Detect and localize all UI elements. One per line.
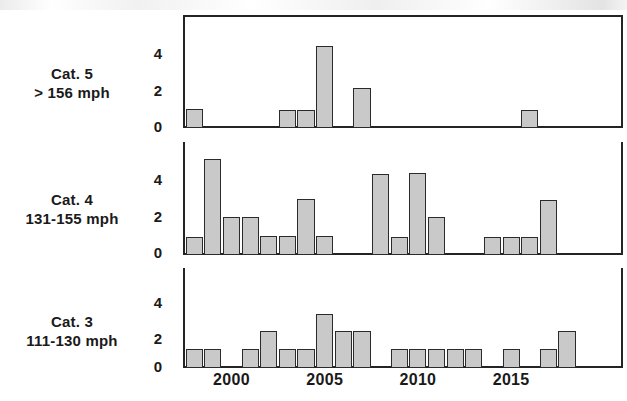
bar bbox=[540, 200, 557, 255]
xtick-2000: 2000 bbox=[201, 372, 261, 388]
bar bbox=[428, 349, 445, 368]
ytick-cat5-2: 2 bbox=[142, 83, 162, 98]
bar bbox=[279, 349, 296, 368]
bar bbox=[204, 349, 221, 368]
bar bbox=[391, 349, 408, 368]
bar bbox=[372, 174, 389, 255]
bar bbox=[260, 236, 277, 255]
panel-label-cat-3-line2: 111-130 mph bbox=[8, 331, 136, 350]
baseline-cat-5 bbox=[183, 126, 623, 128]
bar bbox=[297, 349, 314, 368]
panel-label-cat-4: Cat. 4 131-155 mph bbox=[8, 190, 136, 228]
ytick-cat5-0: 0 bbox=[142, 119, 162, 134]
xtick-2005: 2005 bbox=[295, 372, 355, 388]
bar bbox=[204, 159, 221, 255]
panel-label-cat-5: Cat. 5 > 156 mph bbox=[8, 64, 136, 102]
bar bbox=[279, 110, 296, 128]
panel-label-cat-5-line1: Cat. 5 bbox=[51, 65, 93, 82]
bar bbox=[521, 237, 538, 255]
bar bbox=[186, 237, 203, 255]
plot-area-cat-4 bbox=[183, 142, 623, 255]
plot-area-cat-5 bbox=[183, 15, 623, 128]
bar bbox=[260, 331, 277, 368]
panel-label-cat-5-line2: > 156 mph bbox=[8, 83, 136, 102]
bar bbox=[521, 110, 538, 128]
bar bbox=[447, 349, 464, 368]
panel-label-cat-4-line1: Cat. 4 bbox=[51, 191, 93, 208]
ytick-cat3-4: 4 bbox=[142, 295, 162, 310]
bar bbox=[353, 331, 370, 368]
bar bbox=[316, 46, 333, 128]
panel-label-cat-3: Cat. 3 111-130 mph bbox=[8, 312, 136, 350]
ytick-cat4-2: 2 bbox=[142, 209, 162, 224]
bar bbox=[503, 349, 520, 368]
hurricane-category-bar-chart-figure: Cat. 5 > 156 mph 4 2 0 Cat. 4 131-155 mp… bbox=[0, 0, 627, 401]
bar bbox=[316, 236, 333, 255]
bar bbox=[316, 314, 333, 368]
bar bbox=[242, 217, 259, 255]
ytick-cat3-0: 0 bbox=[142, 359, 162, 374]
bar bbox=[409, 349, 426, 368]
bar bbox=[353, 88, 370, 128]
bar bbox=[409, 173, 426, 255]
xtick-2010: 2010 bbox=[388, 372, 448, 388]
ytick-cat5-4: 4 bbox=[142, 46, 162, 61]
xtick-2015: 2015 bbox=[481, 372, 541, 388]
bar bbox=[540, 349, 557, 368]
bar bbox=[279, 236, 296, 255]
bar bbox=[465, 349, 482, 368]
ytick-cat4-4: 4 bbox=[142, 172, 162, 187]
panel-label-cat-4-line2: 131-155 mph bbox=[8, 209, 136, 228]
bar bbox=[335, 331, 352, 368]
plot-frame-cat-5 bbox=[183, 15, 623, 128]
bar bbox=[503, 237, 520, 255]
bar bbox=[186, 109, 203, 128]
bar bbox=[297, 199, 314, 256]
panel-label-cat-3-line1: Cat. 3 bbox=[51, 313, 93, 330]
plot-area-cat-3 bbox=[183, 268, 623, 368]
bar bbox=[297, 110, 314, 128]
bar bbox=[242, 349, 259, 368]
bar bbox=[223, 217, 240, 255]
scan-noise-band bbox=[0, 0, 627, 10]
bar bbox=[186, 349, 203, 368]
bar bbox=[484, 237, 501, 255]
bar bbox=[391, 237, 408, 255]
ytick-cat3-2: 2 bbox=[142, 331, 162, 346]
bar bbox=[428, 217, 445, 255]
ytick-cat4-0: 0 bbox=[142, 245, 162, 260]
bar bbox=[558, 331, 575, 368]
